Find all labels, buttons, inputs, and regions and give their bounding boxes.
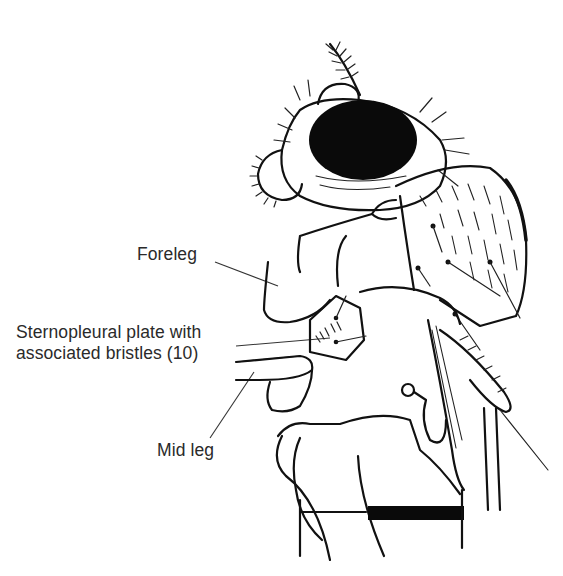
abdomen-leg-line <box>277 436 330 560</box>
thorax-edge-shading <box>506 180 526 240</box>
label-sternopleural-line2: associated bristles (10) <box>16 343 201 364</box>
foreleg-upper <box>298 214 372 272</box>
abdominal-band <box>368 506 464 520</box>
thorax-dorsum-outline <box>396 166 526 326</box>
foreleg-outline <box>264 262 330 322</box>
arista-icon <box>326 42 360 95</box>
mid-leg-femur <box>236 356 312 380</box>
long-bristles <box>484 408 500 510</box>
abdomen-upper-outline <box>278 416 460 494</box>
fly-line-drawing <box>0 0 563 576</box>
compound-eye-icon <box>309 100 417 180</box>
sternopleural-leader-line-1 <box>236 338 330 346</box>
wing-hatching <box>460 336 506 392</box>
label-mid-leg: Mid leg <box>157 440 214 461</box>
label-foreleg: Foreleg <box>137 244 197 265</box>
label-sternopleural-line1: Sternopleural plate with <box>16 322 201 343</box>
halter-stalk <box>414 392 446 443</box>
mesopleura-outline <box>360 287 460 324</box>
mid-leg-leader-line <box>210 372 254 438</box>
abdomen-left-outline <box>294 438 322 540</box>
fly-figure: Foreleg Sternopleural plate with associa… <box>0 0 563 576</box>
halter-knob <box>402 384 414 396</box>
pleural-suture <box>400 196 414 290</box>
mid-leg-coxa <box>267 370 312 411</box>
sternopleural-plate <box>310 296 364 360</box>
leader-lines <box>210 262 330 438</box>
label-sternopleural-plate: Sternopleural plate with associated bris… <box>16 322 201 364</box>
